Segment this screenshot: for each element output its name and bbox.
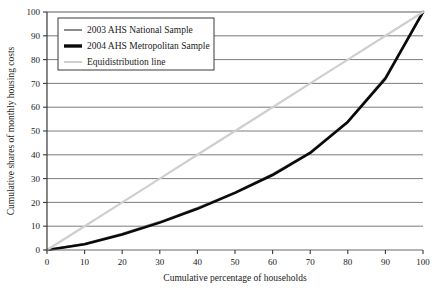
x-tick-label: 30 (155, 257, 165, 267)
y-tick-label: 50 (31, 126, 41, 136)
x-axis-title: Cumulative percentage of households (163, 273, 307, 283)
y-tick-label: 40 (31, 150, 41, 160)
x-tick-label: 90 (381, 257, 391, 267)
x-tick-label: 100 (416, 257, 430, 267)
x-tick-label: 80 (343, 257, 353, 267)
y-axis-title: Cumulative shares of monthly housing cos… (6, 46, 16, 215)
legend-label: Equidistribution line (87, 57, 165, 67)
y-tick-label: 80 (31, 55, 41, 65)
y-tick-label: 20 (31, 198, 41, 208)
lorenz-curve-chart: 0102030405060708090100 01020304050607080… (0, 0, 439, 288)
x-tick-label: 70 (306, 257, 316, 267)
y-tick-label: 70 (31, 79, 41, 89)
y-tick-label: 60 (31, 102, 41, 112)
x-tick-label: 60 (268, 257, 278, 267)
x-tick-label: 0 (45, 257, 50, 267)
y-tick-label: 10 (31, 221, 41, 231)
y-tick-label: 30 (31, 174, 41, 184)
y-tick-label: 100 (27, 7, 41, 17)
x-tick-label: 50 (231, 257, 241, 267)
legend-label: 2003 AHS National Sample (87, 25, 193, 35)
legend-label: 2004 AHS Metropolitan Sample (87, 41, 210, 51)
y-tick-label: 0 (36, 245, 41, 255)
x-tick-label: 20 (118, 257, 128, 267)
chart-page: 0102030405060708090100 01020304050607080… (0, 0, 439, 288)
x-tick-label: 40 (193, 257, 203, 267)
legend: 2003 AHS National Sample2004 AHS Metropo… (58, 18, 214, 70)
x-tick-label: 10 (80, 257, 90, 267)
y-tick-label: 90 (31, 31, 41, 41)
